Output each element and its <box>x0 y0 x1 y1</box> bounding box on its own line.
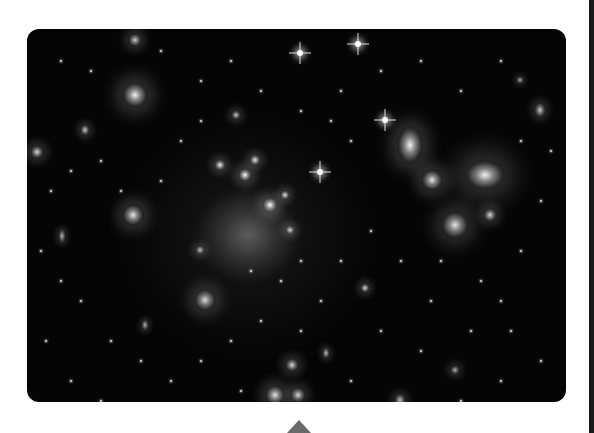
faint-galaxy-dot <box>540 360 542 362</box>
galaxy-glow <box>194 289 216 311</box>
faint-galaxy-dot <box>370 230 372 232</box>
galaxy-glow <box>80 124 90 136</box>
faint-galaxy-dot <box>60 60 62 62</box>
faint-galaxy-dot <box>460 90 462 92</box>
galaxy-glow <box>421 169 443 191</box>
galaxy-glow <box>128 33 142 47</box>
faint-galaxy-dot <box>80 300 82 302</box>
galaxy-glow <box>188 180 308 290</box>
galaxy-glow <box>285 225 295 235</box>
galaxy-glow <box>249 154 261 166</box>
faint-galaxy-dot <box>120 190 122 192</box>
faint-galaxy-dot <box>520 250 522 252</box>
galaxy-glow <box>262 197 278 213</box>
galaxy-glow <box>516 76 524 84</box>
galaxy-glow <box>534 102 546 118</box>
faint-galaxy-dot <box>550 150 552 152</box>
galaxy-glow <box>214 159 226 171</box>
faint-galaxy-dot <box>470 330 472 332</box>
faint-galaxy-dot <box>380 330 382 332</box>
faint-galaxy-dot <box>200 80 202 82</box>
faint-galaxy-dot <box>480 280 482 282</box>
edge-scrollbar <box>589 0 594 433</box>
faint-galaxy-dot <box>45 340 47 342</box>
faint-galaxy-dot <box>60 280 62 282</box>
faint-galaxy-dot <box>350 140 352 142</box>
faint-galaxy-dot <box>330 120 332 122</box>
faint-galaxy-dot <box>340 90 342 92</box>
faint-galaxy-dot <box>500 60 502 62</box>
faint-galaxy-dot <box>460 400 462 402</box>
faint-galaxy-dot <box>230 60 232 62</box>
faint-galaxy-dot <box>70 380 72 382</box>
faint-galaxy-dot <box>100 400 102 402</box>
galaxy-glow <box>450 365 460 375</box>
faint-galaxy-dot <box>180 140 182 142</box>
faint-galaxy-dot <box>260 320 262 322</box>
faint-galaxy-dot <box>520 140 522 142</box>
faint-galaxy-dot <box>320 300 322 302</box>
galaxy-glow <box>58 228 66 244</box>
faint-galaxy-dot <box>70 170 72 172</box>
galaxy-glow <box>122 82 148 108</box>
faint-galaxy-dot <box>160 50 162 52</box>
galaxy-glow <box>285 358 299 372</box>
galaxy-glow <box>238 168 252 182</box>
galaxy-glow <box>397 126 423 164</box>
galaxy-glow <box>483 208 497 222</box>
faint-galaxy-dot <box>280 280 282 282</box>
galaxy-glow <box>265 385 285 402</box>
galaxy-glow <box>122 204 144 226</box>
galaxy-glow <box>360 283 370 293</box>
galaxy-glow <box>195 245 205 255</box>
faint-galaxy-dot <box>250 270 252 272</box>
faint-galaxy-dot <box>200 360 202 362</box>
faint-galaxy-dot <box>100 160 102 162</box>
faint-galaxy-dot <box>90 70 92 72</box>
galaxy-cluster-image <box>27 29 566 402</box>
faint-galaxy-dot <box>200 120 202 122</box>
faint-galaxy-dot <box>160 180 162 182</box>
galaxy-glow <box>394 393 406 402</box>
galaxy-glow <box>280 190 290 200</box>
faint-galaxy-dot <box>110 340 112 342</box>
faint-galaxy-dot <box>230 340 232 342</box>
faint-galaxy-dot <box>420 350 422 352</box>
faint-galaxy-dot <box>240 390 242 392</box>
faint-galaxy-dot <box>40 250 42 252</box>
faint-galaxy-dot <box>440 260 442 262</box>
galaxy-glow <box>231 110 241 120</box>
pointer-triangle-icon <box>287 420 311 433</box>
faint-galaxy-dot <box>510 330 512 332</box>
galaxy-glow <box>141 319 149 331</box>
faint-galaxy-dot <box>500 300 502 302</box>
faint-galaxy-dot <box>430 300 432 302</box>
faint-galaxy-dot <box>170 380 172 382</box>
faint-galaxy-dot <box>540 200 542 202</box>
faint-galaxy-dot <box>350 380 352 382</box>
faint-galaxy-dot <box>260 90 262 92</box>
faint-galaxy-dot <box>340 260 342 262</box>
faint-galaxy-dot <box>420 60 422 62</box>
faint-galaxy-dot <box>380 70 382 72</box>
galaxy-glow <box>465 160 505 190</box>
galaxy-glow <box>441 211 469 239</box>
faint-galaxy-dot <box>300 330 302 332</box>
faint-galaxy-dot <box>300 110 302 112</box>
galaxy-glow <box>290 387 306 402</box>
galaxy-glow <box>30 145 44 159</box>
galaxy-glow <box>322 347 330 359</box>
faint-galaxy-dot <box>140 360 142 362</box>
faint-galaxy-dot <box>400 260 402 262</box>
faint-galaxy-dot <box>500 380 502 382</box>
faint-galaxy-dot <box>50 190 52 192</box>
faint-galaxy-dot <box>300 260 302 262</box>
